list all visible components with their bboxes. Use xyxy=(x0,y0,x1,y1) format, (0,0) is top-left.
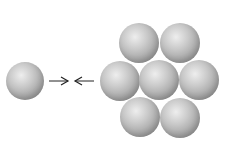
cluster-sphere-bottom-right xyxy=(160,98,200,138)
cluster-sphere-top-right xyxy=(160,23,200,63)
arrow-left-icon xyxy=(75,77,94,85)
arrow-right-icon xyxy=(49,77,68,85)
diagram-canvas xyxy=(0,0,247,149)
cluster-sphere-mid-left xyxy=(100,61,140,101)
cluster-sphere-center xyxy=(139,60,179,100)
cluster-sphere-bottom-left xyxy=(120,97,160,137)
cluster-sphere-top-left xyxy=(119,23,159,63)
cluster-sphere-mid-right xyxy=(179,60,219,100)
